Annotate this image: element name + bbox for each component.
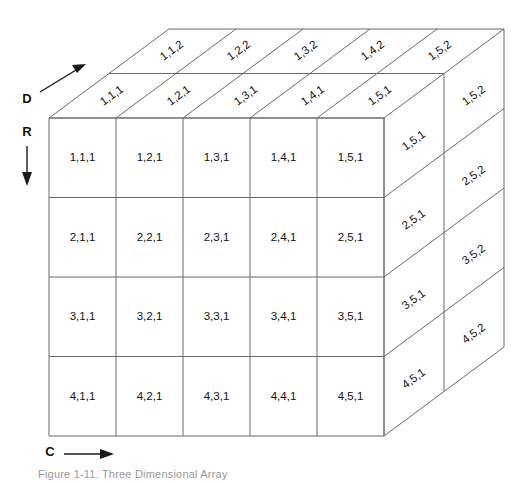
axis-r-label: R — [22, 124, 32, 139]
front-cell: 4,4,1 — [271, 390, 297, 402]
axis-c: C — [45, 444, 114, 459]
axis-c-arrowhead — [100, 449, 114, 459]
front-cell: 2,2,1 — [137, 231, 163, 243]
axis-c-label: C — [45, 444, 55, 459]
front-cell: 2,1,1 — [70, 231, 96, 243]
front-cell: 3,1,1 — [70, 310, 96, 322]
axis-d-label: D — [22, 91, 31, 106]
axis-r-arrowhead — [22, 172, 32, 186]
axis-r: R — [22, 124, 32, 186]
front-cell: 1,1,1 — [70, 151, 96, 163]
front-cell: 2,3,1 — [204, 231, 230, 243]
front-cell: 4,1,1 — [70, 390, 96, 402]
front-cell: 1,5,1 — [338, 151, 364, 163]
front-cell: 4,5,1 — [338, 390, 364, 402]
three-dimensional-array-diagram: 1,1,1 1,2,1 1,3,1 1,4,1 1,5,1 2,1,1 2,2,… — [0, 0, 527, 484]
front-cell: 2,5,1 — [338, 231, 364, 243]
front-cell: 3,2,1 — [137, 310, 163, 322]
front-cell: 1,3,1 — [204, 151, 230, 163]
figure-canvas: 1,1,1 1,2,1 1,3,1 1,4,1 1,5,1 2,1,1 2,2,… — [0, 0, 527, 484]
figure-caption: Figure 1-11. Three Dimensional Array — [38, 468, 228, 480]
front-cell: 3,3,1 — [204, 310, 230, 322]
front-cell: 4,3,1 — [204, 390, 230, 402]
front-cell: 3,4,1 — [271, 310, 297, 322]
front-cell: 2,4,1 — [271, 231, 297, 243]
axis-d-line — [40, 67, 81, 92]
front-cell: 1,4,1 — [271, 151, 297, 163]
front-cell: 4,2,1 — [137, 390, 163, 402]
front-cell: 1,2,1 — [137, 151, 163, 163]
front-cell: 3,5,1 — [338, 310, 364, 322]
